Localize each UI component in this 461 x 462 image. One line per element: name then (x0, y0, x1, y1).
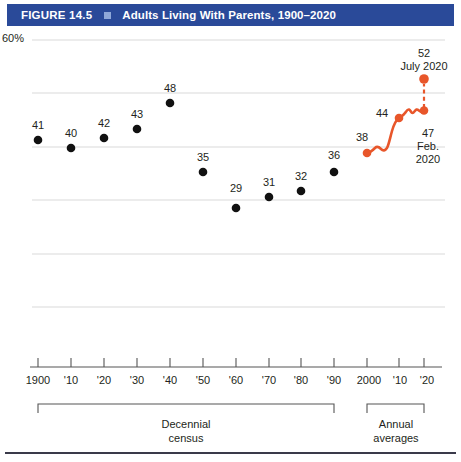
july-date-label: July 2020 (400, 60, 447, 72)
july-value-label: 52 (418, 47, 430, 59)
feb-year-label: 2020 (416, 153, 440, 165)
x-tick-label: '30 (130, 374, 144, 386)
gridlines (32, 40, 445, 307)
x-tick-label: '40 (163, 374, 177, 386)
data-point (265, 193, 274, 202)
data-point (34, 136, 43, 145)
data-point (133, 125, 142, 134)
data-point-label: 31 (263, 176, 275, 188)
data-point-label: 43 (131, 108, 143, 120)
data-point (363, 149, 372, 158)
x-axis-tick-labels: 1900 '10 '20 '30 '40 '50 '60 '70 '80 '90… (26, 374, 434, 386)
annual-label-line2: averages (373, 432, 419, 444)
decennial-label-line1: Decennial (162, 418, 211, 430)
feb-2020-annotation: 47 Feb. 2020 (416, 127, 440, 165)
data-point (330, 168, 339, 177)
data-point-label: 48 (164, 82, 176, 94)
data-point-label: 32 (295, 170, 307, 182)
data-point (232, 204, 241, 213)
data-point (395, 114, 404, 123)
feb-value-label: 47 (422, 127, 434, 139)
footer-divider (5, 452, 456, 454)
x-tick-label: 2000 (357, 374, 381, 386)
data-point (297, 187, 306, 196)
group-brackets (38, 404, 424, 413)
data-point-label: 35 (197, 151, 209, 163)
data-point-label: 44 (376, 107, 388, 119)
x-tick-label: '90 (327, 374, 341, 386)
x-tick-label: '80 (294, 374, 308, 386)
x-tick-label: '20 (97, 374, 111, 386)
data-point-label: 36 (328, 149, 340, 161)
x-tick-label: '70 (262, 374, 276, 386)
annual-label-line1: Annual (379, 418, 413, 430)
x-axis (30, 358, 442, 367)
x-tick-label: '10 (64, 374, 78, 386)
data-point (199, 168, 208, 177)
data-point-label: 29 (230, 182, 242, 194)
data-point-label: 41 (32, 119, 44, 131)
x-tick-label: '60 (229, 374, 243, 386)
data-point-label: 40 (65, 127, 77, 139)
data-point (166, 99, 175, 108)
x-tick-label: '10 (393, 374, 407, 386)
decennial-label-line2: census (169, 432, 204, 444)
data-point (67, 144, 76, 153)
annual-bracket (367, 404, 424, 413)
bracket-labels: Decennial census Annual averages (162, 418, 420, 444)
x-tick-label: '50 (196, 374, 210, 386)
chart-plot: 41 40 42 43 48 35 29 31 32 36 38 (0, 0, 461, 462)
data-point-label: 42 (98, 117, 110, 129)
feb-month-label: Feb. (417, 140, 439, 152)
data-point (419, 74, 429, 84)
x-tick-label: 1900 (26, 374, 50, 386)
series-july-2020-projection: 52 July 2020 (400, 47, 447, 108)
data-point-label: 38 (356, 131, 368, 143)
decennial-bracket (38, 404, 334, 413)
data-point (100, 134, 109, 143)
figure-container: FIGURE 14.5 Adults Living With Parents, … (0, 0, 461, 462)
x-tick-label: '20 (420, 374, 434, 386)
